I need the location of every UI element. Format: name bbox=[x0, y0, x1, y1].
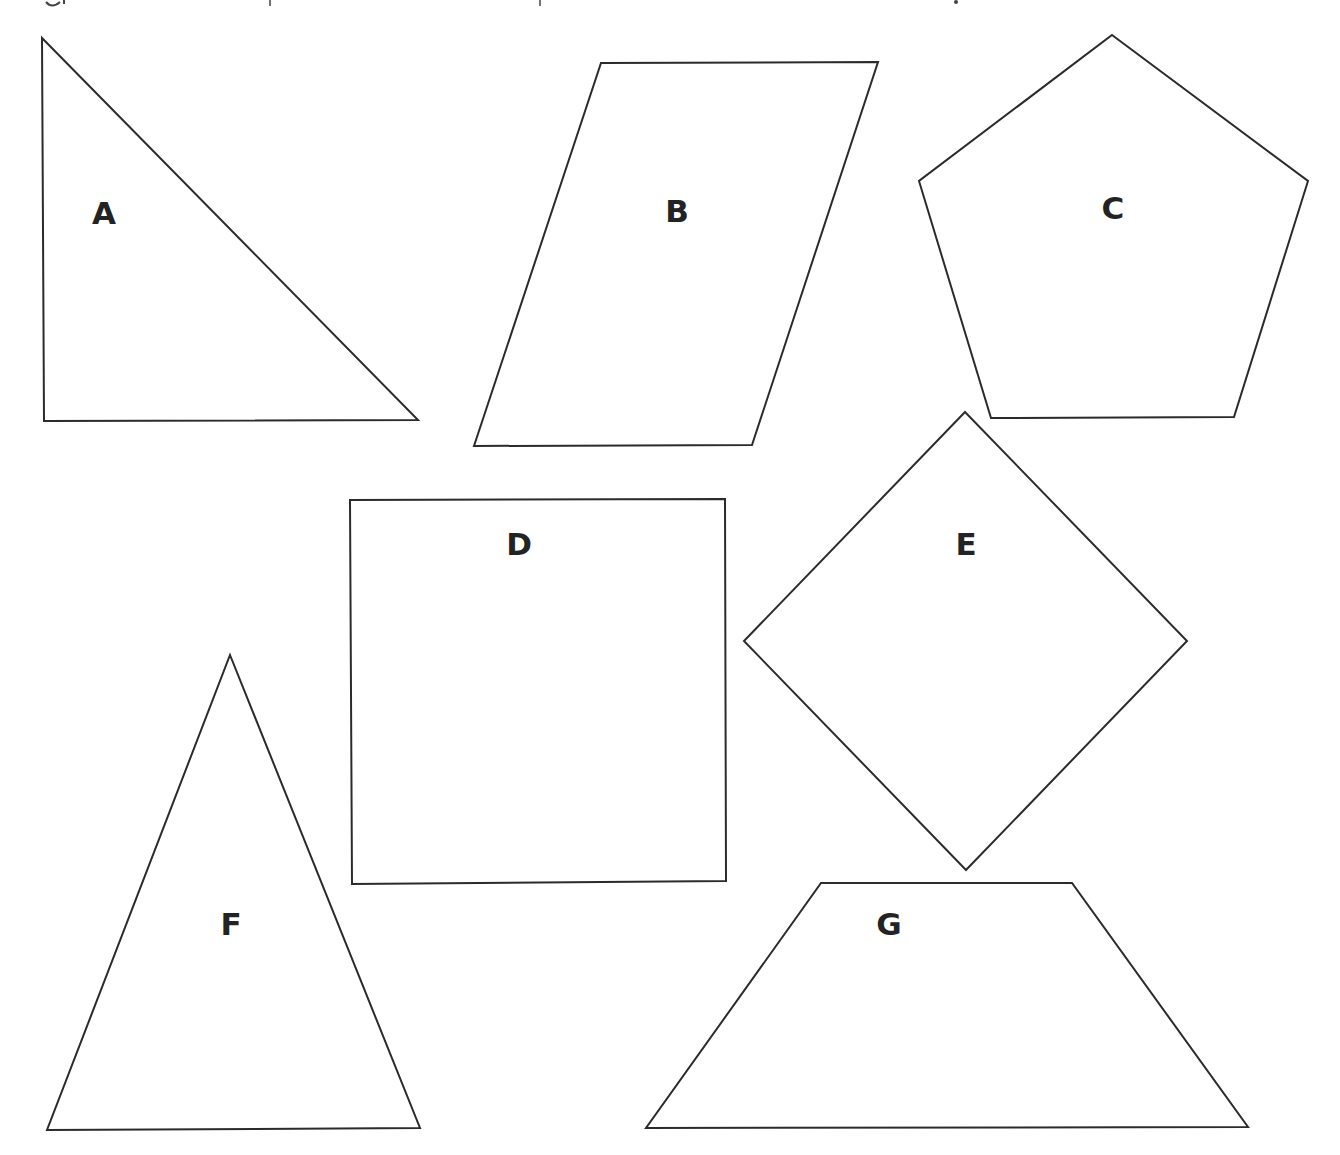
shape-C: C bbox=[919, 35, 1308, 418]
trapezoid-shape bbox=[646, 883, 1248, 1128]
pentagon-shape bbox=[919, 35, 1308, 418]
shape-label-G: G bbox=[876, 906, 901, 942]
shape-label-E: E bbox=[955, 526, 976, 562]
shape-E: E bbox=[744, 412, 1187, 870]
shapes-canvas: A B C D E F G bbox=[0, 0, 1340, 1155]
shape-label-B: B bbox=[665, 193, 689, 229]
shape-D: D bbox=[350, 499, 726, 884]
clipped-heading-fragment bbox=[46, 0, 958, 6]
shape-label-F: F bbox=[220, 906, 241, 942]
shape-A: A bbox=[42, 38, 418, 421]
square-shape bbox=[350, 499, 726, 884]
shape-label-C: C bbox=[1102, 190, 1125, 226]
shape-label-A: A bbox=[92, 195, 116, 231]
shape-G: G bbox=[646, 883, 1248, 1128]
parallelogram-shape bbox=[474, 62, 878, 446]
rhombus-shape bbox=[744, 412, 1187, 870]
shape-label-D: D bbox=[506, 526, 532, 562]
shape-B: B bbox=[474, 62, 878, 446]
